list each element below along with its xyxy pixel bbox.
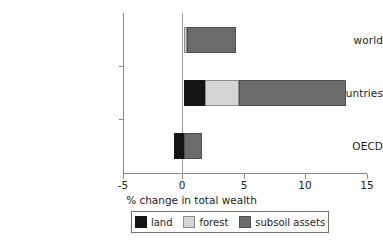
- bar-segment-subsoil-assets: [184, 133, 202, 159]
- x-axis-line: [123, 173, 367, 174]
- x-tick-label-0: 0: [179, 179, 186, 191]
- legend-label-land: land: [151, 217, 173, 228]
- bar-developing-countries: [0, 80, 383, 106]
- y-axis-tick: [119, 119, 124, 120]
- legend: land forest subsoil assets: [131, 211, 329, 233]
- x-axis-title: % change in total wealth: [0, 194, 383, 206]
- legend-swatch-subsoil-icon: [239, 216, 251, 228]
- x-tick-label-15: 15: [360, 179, 373, 191]
- bar-segment-land: [184, 80, 205, 106]
- bar-oecd: [0, 133, 383, 159]
- legend-item-land: land: [135, 216, 173, 228]
- x-tick-label-minus5: -5: [118, 179, 128, 191]
- x-tick-label-5: 5: [241, 179, 248, 191]
- legend-item-forest: forest: [183, 216, 228, 228]
- legend-swatch-forest-icon: [183, 216, 195, 228]
- bar-world: [0, 27, 383, 53]
- legend-label-forest: forest: [199, 217, 228, 228]
- x-tick-label-10: 10: [298, 179, 311, 191]
- chart-container: world developing countries OECD -5 0 5 1…: [0, 0, 383, 246]
- legend-item-subsoil-assets: subsoil assets: [239, 216, 325, 228]
- y-axis-tick: [119, 66, 124, 67]
- bar-segment-subsoil-assets: [187, 27, 236, 53]
- bar-segment-subsoil-assets: [239, 80, 346, 106]
- legend-swatch-land-icon: [135, 216, 147, 228]
- legend-label-subsoil-assets: subsoil assets: [255, 217, 325, 228]
- bar-segment-forest: [205, 80, 239, 106]
- bar-segment-land: [174, 133, 184, 159]
